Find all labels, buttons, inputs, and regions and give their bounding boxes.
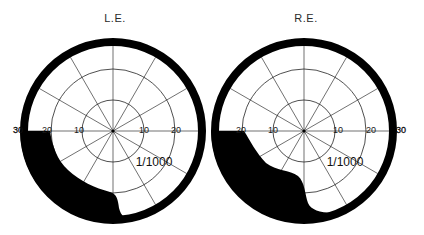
degree-tick-label: 20: [236, 125, 246, 135]
isopter-label: 1/1000: [136, 155, 173, 169]
fixation-point: [302, 129, 305, 132]
fixation-point: [111, 129, 114, 132]
visual-field-diagram: 30201010201/1000L.E.20101020301/1000R.E.: [0, 0, 424, 235]
degree-tick-label: 30: [13, 125, 23, 135]
degree-tick-label: 20: [42, 125, 52, 135]
eye-label: L.E.: [104, 12, 126, 24]
degree-tick-label: 20: [366, 125, 376, 135]
degree-tick-label: 10: [139, 125, 149, 135]
eye-label: R.E.: [294, 12, 317, 24]
degree-tick-label: 10: [74, 125, 84, 135]
degree-tick-label: 20: [171, 125, 181, 135]
degree-tick-label: 10: [268, 125, 278, 135]
isopter-label: 1/1000: [327, 155, 364, 169]
degree-tick-label: 30: [396, 125, 406, 135]
degree-tick-label: 10: [333, 125, 343, 135]
